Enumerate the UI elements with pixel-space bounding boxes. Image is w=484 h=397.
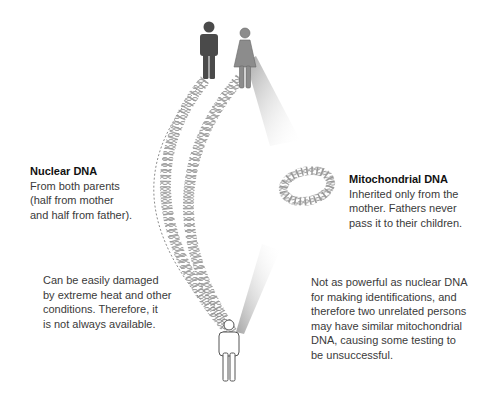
mitochondrial-dna-label: Mitochondrial DNA Inherited only from th… xyxy=(349,172,462,230)
nuclear-note-line: is not always available. xyxy=(43,317,171,332)
nuclear-note-line: conditions. Therefore, it xyxy=(43,302,171,317)
nuclear-dna-label: Nuclear DNA From both parents (half from… xyxy=(30,164,132,222)
nuclear-dna-title: Nuclear DNA xyxy=(30,164,132,179)
mitochondrial-dna-line: mother. Fathers never xyxy=(349,201,462,216)
mito-note-line: be unsuccessful. xyxy=(311,348,468,363)
mitochondrial-dna-note: Not as powerful as nuclear DNA for makin… xyxy=(311,275,468,362)
nuclear-note-line: by extreme heat and other xyxy=(43,288,171,303)
mito-note-line: may have similar mitochondrial xyxy=(311,319,468,334)
mito-note-line: therefore two unrelated persons xyxy=(311,304,468,319)
mito-beam-bottom xyxy=(236,244,280,334)
mitochondrial-dna-ring xyxy=(280,166,333,205)
nuclear-dna-line: From both parents xyxy=(30,179,132,194)
mito-note-line: for making identifications, and xyxy=(311,290,468,305)
mitochondrial-dna-line: Inherited only from the xyxy=(349,187,462,202)
nuclear-dna-note: Can be easily damaged by extreme heat an… xyxy=(43,273,171,331)
father-figure-icon xyxy=(200,22,218,80)
mitochondrial-dna-line: pass it to their children. xyxy=(349,216,462,231)
nuclear-dna-line: and half from father). xyxy=(30,208,132,223)
nuclear-note-line: Can be easily damaged xyxy=(43,273,171,288)
nuclear-dna-line: (half from mother xyxy=(30,193,132,208)
mito-beam-top xyxy=(246,56,300,146)
mitochondrial-dna-title: Mitochondrial DNA xyxy=(349,172,462,187)
mito-note-line: DNA, causing some testing to xyxy=(311,333,468,348)
mito-note-line: Not as powerful as nuclear DNA xyxy=(311,275,468,290)
